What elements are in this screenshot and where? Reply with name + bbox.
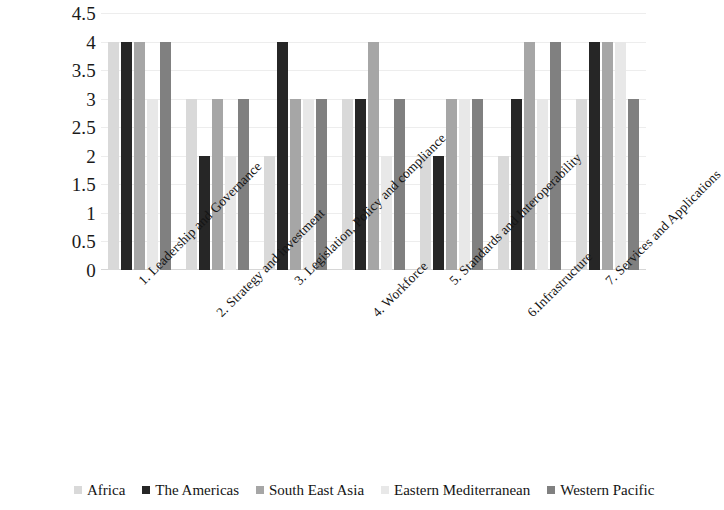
bar[interactable] (355, 99, 366, 270)
bar[interactable] (602, 42, 613, 270)
bar[interactable] (108, 42, 119, 270)
bar[interactable] (420, 156, 431, 270)
bar-group (576, 13, 639, 270)
bar[interactable] (368, 42, 379, 270)
bar[interactable] (134, 42, 145, 270)
bar[interactable] (121, 42, 132, 270)
legend-label: Eastern Mediterranean (394, 482, 530, 498)
legend-swatch-icon (547, 486, 555, 494)
bar[interactable] (524, 42, 535, 270)
legend-label: South East Asia (269, 482, 364, 498)
bar[interactable] (459, 99, 470, 270)
y-axis-tick-label: 1.5 (46, 175, 96, 194)
y-axis-tick-label: 0.5 (46, 232, 96, 251)
y-axis-tick-label: 4.5 (46, 4, 96, 23)
legend-swatch-icon (256, 486, 264, 494)
bar[interactable] (433, 156, 444, 270)
bar[interactable] (160, 42, 171, 270)
bar[interactable] (615, 42, 626, 270)
legend-item[interactable]: The Americas (142, 482, 239, 498)
y-axis-tick-label: 2.5 (46, 118, 96, 137)
bar[interactable] (589, 42, 600, 270)
bar[interactable] (446, 99, 457, 270)
bar[interactable] (147, 99, 158, 270)
y-axis-tick-label: 2 (46, 147, 96, 166)
bar[interactable] (498, 156, 509, 270)
y-axis-tick-label: 4 (46, 33, 96, 52)
y-axis: 4.543.532.521.510.50 (46, 0, 96, 286)
legend-swatch-icon (142, 486, 150, 494)
legend-label: Africa (87, 482, 125, 498)
bar[interactable] (225, 156, 236, 270)
chart-legend: AfricaThe AmericasSouth East AsiaEastern… (0, 478, 666, 502)
legend-item[interactable]: Western Pacific (547, 482, 654, 498)
y-axis-tick-label: 3 (46, 90, 96, 109)
bar[interactable] (303, 99, 314, 270)
bar[interactable] (576, 99, 587, 270)
legend-item[interactable]: Eastern Mediterranean (381, 482, 530, 498)
legend-label: The Americas (155, 482, 239, 498)
legend-label: Western Pacific (560, 482, 654, 498)
bar[interactable] (511, 99, 522, 270)
legend-item[interactable]: Africa (74, 482, 125, 498)
y-axis-tick-label: 3.5 (46, 61, 96, 80)
bar[interactable] (212, 99, 223, 270)
bar-group (108, 13, 171, 270)
y-axis-tick-label: 1 (46, 204, 96, 223)
legend-item[interactable]: South East Asia (256, 482, 364, 498)
bar[interactable] (381, 156, 392, 270)
legend-swatch-icon (381, 486, 389, 494)
x-axis-labels: 1. Leadership and Governance2. Strategy … (0, 272, 666, 462)
bar[interactable] (550, 42, 561, 270)
legend-swatch-icon (74, 486, 82, 494)
